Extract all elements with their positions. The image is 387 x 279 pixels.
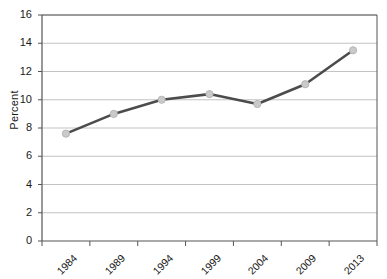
y-tick-label-6: 6 [10,150,32,161]
data-point-1989 [110,110,117,117]
y-axis-title: Percent [8,70,20,150]
y-tick-label-12: 12 [10,66,32,77]
axis-ticks [38,15,377,246]
y-tick-label-14: 14 [10,37,32,48]
y-tick-label-16: 16 [10,9,32,20]
data-point-markers [62,47,356,138]
y-tick-label-10: 10 [10,94,32,105]
data-point-2009 [302,81,309,88]
data-point-1994 [158,96,165,103]
data-point-1999 [206,91,213,98]
data-point-1984 [62,130,69,137]
data-point-2013 [349,47,356,54]
data-point-2004 [254,100,261,107]
y-tick-label-0: 0 [10,235,32,246]
y-tick-label-4: 4 [10,179,32,190]
y-tick-label-8: 8 [10,122,32,133]
y-tick-label-2: 2 [10,207,32,218]
gridlines [42,15,377,213]
